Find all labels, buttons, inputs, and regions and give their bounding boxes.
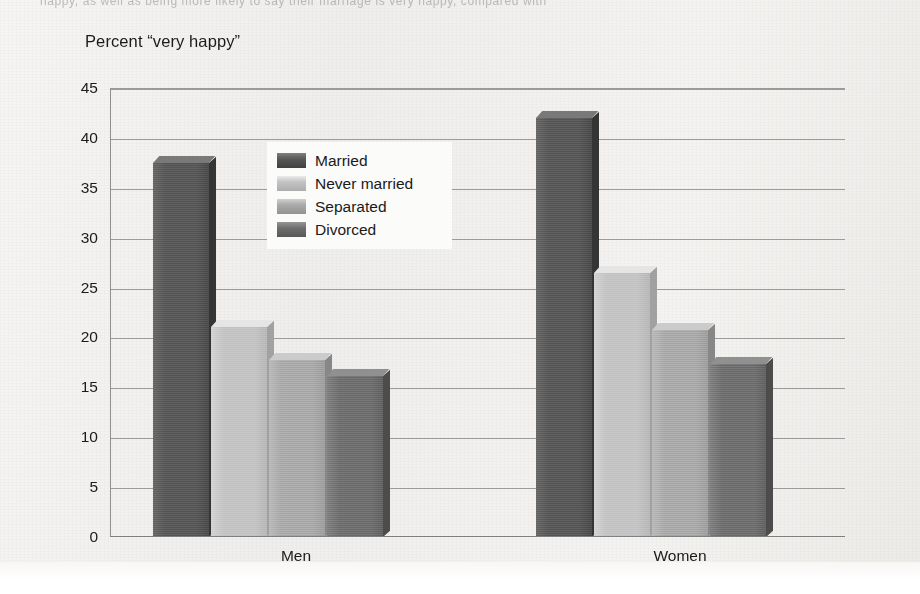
legend-label: Divorced [315,222,376,238]
legend-swatch-icon [277,199,306,214]
plot-area [110,88,845,537]
y-tick-label: 30 [58,229,98,247]
axis-title: Percent “very happy” [85,32,240,51]
gridline [111,89,845,90]
bar-divorced-women [710,364,766,537]
baseline-axis [110,536,845,537]
y-tick-label: 15 [58,378,98,396]
gridline [111,239,845,240]
y-tick-label: 45 [58,79,98,97]
bar-front-face [211,327,267,537]
bar-front-face [327,376,383,537]
bar-top-face [269,353,331,360]
legend-label: Never married [315,176,413,192]
bar-front-face [652,330,708,537]
bar-halftone-texture [327,376,383,537]
chart-legend: MarriedNever marriedSeparatedDivorced [267,142,452,249]
legend-label: Separated [315,199,387,215]
bar-front-face [594,273,650,537]
legend-item-married: Married [277,149,442,172]
y-tick-label: 25 [58,279,98,297]
bar-married-men [153,163,209,537]
y-tick-label: 5 [58,478,98,496]
bar-front-face [710,364,766,537]
gridline [111,139,845,140]
bar-top-face [652,323,714,330]
bar-never-married-men [211,327,267,537]
bar-top-face [211,320,273,327]
gridline [111,189,845,190]
bar-side-face [766,358,773,537]
bar-top-face [327,369,389,376]
cutoff-text-fragment: happy, as well as being more likely to s… [40,0,880,10]
bar-halftone-texture [652,330,708,537]
bar-top-face [153,156,215,163]
page-bottom-margin [0,562,920,594]
bar-divorced-men [327,376,383,537]
bar-separated-men [269,360,325,537]
bar-halftone-texture [269,360,325,537]
y-tick-label: 20 [58,328,98,346]
bar-separated-women [652,330,708,537]
gridline [111,289,845,290]
legend-item-divorced: Divorced [277,218,442,241]
bar-top-face [536,111,598,118]
legend-swatch-icon [277,222,306,237]
bar-halftone-texture [536,118,592,537]
bar-front-face [536,118,592,537]
legend-item-never-married: Never married [277,172,442,195]
bar-halftone-texture [710,364,766,537]
legend-swatch-icon [277,176,306,191]
bar-top-face [710,357,772,364]
legend-label: Married [315,153,368,169]
bar-halftone-texture [594,273,650,537]
y-tick-label: 10 [58,428,98,446]
bar-top-face [594,266,656,273]
y-tick-label: 0 [58,528,98,546]
bar-side-face [383,370,390,537]
bar-front-face [153,163,209,537]
legend-item-separated: Separated [277,195,442,218]
bar-front-face [269,360,325,537]
bar-married-women [536,118,592,537]
y-tick-label: 35 [58,179,98,197]
bar-never-married-women [594,273,650,537]
y-tick-label: 40 [58,129,98,147]
bar-halftone-texture [211,327,267,537]
bar-halftone-texture [153,163,209,537]
legend-swatch-icon [277,153,306,168]
